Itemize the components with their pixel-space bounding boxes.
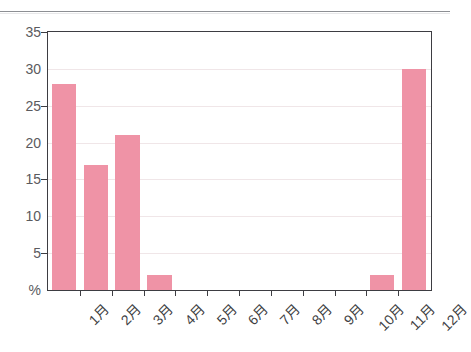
x-axis-tick-label: 3月: [147, 299, 177, 329]
bar-slot: [303, 32, 335, 290]
bar-slot: [80, 32, 112, 290]
x-axis-tick-label: 5月: [211, 299, 241, 329]
bar[interactable]: [147, 275, 171, 290]
bar-slot: [271, 32, 303, 290]
x-axis-tick: [366, 291, 367, 296]
y-axis-tick-label: 5: [3, 245, 41, 261]
x-axis-tick: [175, 291, 176, 296]
x-axis-tick: [112, 291, 113, 296]
x-axis-tick: [271, 291, 272, 296]
y-axis-tick-label: %: [3, 282, 41, 298]
x-axis-tick-label: 6月: [243, 299, 273, 329]
x-axis-tick-label: 11月: [404, 299, 439, 334]
x-axis-tick: [80, 291, 81, 296]
x-axis-tick-label: 1月: [84, 299, 114, 329]
bar[interactable]: [402, 69, 426, 290]
bar-slot: [366, 32, 398, 290]
x-axis-tick: [303, 291, 304, 296]
x-axis-tick: [335, 291, 336, 296]
bar-slot: [175, 32, 207, 290]
bar[interactable]: [370, 275, 394, 290]
x-axis-tick-label: 10月: [373, 299, 408, 334]
y-axis-tick: [41, 253, 48, 254]
x-axis-tick: [144, 291, 145, 296]
bar-slot: [239, 32, 271, 290]
bar-slot: [207, 32, 239, 290]
x-axis-tick: [207, 291, 208, 296]
y-axis-tick-label: 15: [3, 171, 41, 187]
x-axis-tick-label: 12月: [436, 299, 471, 334]
y-axis-tick-label: 20: [3, 135, 41, 151]
bar[interactable]: [52, 84, 76, 290]
y-axis-tick-label: 35: [3, 24, 41, 40]
x-axis-tick-label: 9月: [338, 299, 368, 329]
y-axis-tick-label: 10: [3, 208, 41, 224]
bar[interactable]: [115, 135, 139, 290]
bar-slot: [112, 32, 144, 290]
y-axis-tick-label: 30: [3, 61, 41, 77]
x-axis-tick: [398, 291, 399, 296]
bar-slot: [335, 32, 367, 290]
x-axis-tick-label: 4月: [179, 299, 209, 329]
y-axis-tick: [41, 32, 48, 33]
bar-slot: [48, 32, 80, 290]
y-axis-tick-label: 25: [3, 98, 41, 114]
bar-series: [48, 32, 430, 290]
x-axis-tick-label: 8月: [307, 299, 337, 329]
x-axis-tick-label: 7月: [275, 299, 305, 329]
x-axis-tick: [239, 291, 240, 296]
y-axis-tick: [41, 106, 48, 107]
y-axis-tick: [41, 179, 48, 180]
bar[interactable]: [84, 165, 108, 290]
bar-slot: [398, 32, 430, 290]
x-axis-tick-label: 2月: [116, 299, 146, 329]
bar-slot: [144, 32, 176, 290]
